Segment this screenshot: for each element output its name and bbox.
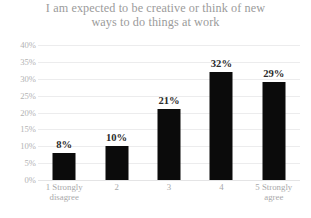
y-axis-tick-label: 15% (0, 125, 36, 134)
x-axis-tick-line: agree (248, 192, 300, 202)
bar[interactable] (105, 146, 128, 180)
bar[interactable] (53, 153, 76, 180)
x-axis: 1 Stronglydisagree2345 Stronglyagree (38, 182, 300, 216)
bar-value-label: 21% (158, 95, 179, 106)
bar-slot: 29% (248, 45, 300, 180)
x-axis-tick-line: 5 Strongly (248, 182, 300, 192)
bar[interactable] (210, 72, 233, 180)
bar-slot: 21% (143, 45, 195, 180)
x-axis-tick-label: 5 Stronglyagree (248, 182, 300, 202)
x-axis-tick-label: 3 (143, 182, 195, 192)
bar-value-label: 32% (211, 58, 232, 69)
y-axis-tick-label: 5% (0, 159, 36, 168)
gridline (38, 180, 300, 181)
chart-title: I am expected to be creative or think of… (18, 1, 293, 30)
bar-value-label: 29% (263, 68, 284, 79)
bar-slot: 10% (90, 45, 142, 180)
bar-chart: I am expected to be creative or think of… (0, 0, 311, 218)
bar-value-label: 8% (56, 139, 72, 150)
bar-slot: 8% (38, 45, 90, 180)
x-axis-tick-label: 2 (90, 182, 142, 192)
x-axis-tick-label: 4 (195, 182, 247, 192)
x-axis-tick-line: 2 (90, 182, 142, 192)
bar-value-label: 10% (106, 132, 127, 143)
chart-title-line-2: ways to do things at work (18, 15, 293, 29)
y-axis-tick-label: 20% (0, 108, 36, 117)
bar-slot: 32% (195, 45, 247, 180)
bar[interactable] (157, 109, 180, 180)
y-axis-tick-label: 0% (0, 176, 36, 185)
bar[interactable] (262, 82, 285, 180)
y-axis-tick-label: 25% (0, 91, 36, 100)
y-axis-tick-label: 10% (0, 142, 36, 151)
y-axis-tick-label: 40% (0, 41, 36, 50)
y-axis: 40%35%30%25%20%15%10%5%0% (0, 45, 36, 180)
x-axis-tick-label: 1 Stronglydisagree (38, 182, 90, 202)
chart-title-line-1: I am expected to be creative or think of… (18, 1, 293, 15)
x-axis-tick-line: 3 (143, 182, 195, 192)
y-axis-tick-label: 30% (0, 74, 36, 83)
x-axis-tick-line: 4 (195, 182, 247, 192)
y-axis-tick-label: 35% (0, 57, 36, 66)
x-axis-tick-line: disagree (38, 192, 90, 202)
plot-area: 8%10%21%32%29% (38, 45, 300, 180)
x-axis-tick-line: 1 Strongly (38, 182, 90, 192)
